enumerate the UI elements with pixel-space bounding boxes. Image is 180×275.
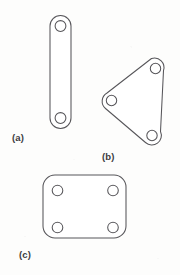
quaternary-link-pin-hole-3 xyxy=(52,222,63,233)
ternary-link-pin-hole-1 xyxy=(150,63,160,73)
quaternary-link-pin-hole-2 xyxy=(108,185,119,196)
links-diagram xyxy=(0,0,180,275)
quaternary-link-pin-hole-4 xyxy=(108,222,119,233)
binary-link-outline xyxy=(50,16,71,129)
quaternary-link-pin-hole-1 xyxy=(52,185,63,196)
binary-link-pin-hole-1 xyxy=(55,21,66,32)
binary-link-group xyxy=(50,16,71,129)
figure-label-c: (c) xyxy=(19,249,31,260)
figure-label-b: (b) xyxy=(102,151,115,162)
figure-label-a: (a) xyxy=(12,132,24,143)
ternary-link-pin-hole-3 xyxy=(147,130,157,140)
binary-link-pin-hole-2 xyxy=(55,113,66,124)
figure-container: (a) (b) (c) xyxy=(0,0,180,275)
ternary-link-pin-hole-2 xyxy=(106,95,116,105)
